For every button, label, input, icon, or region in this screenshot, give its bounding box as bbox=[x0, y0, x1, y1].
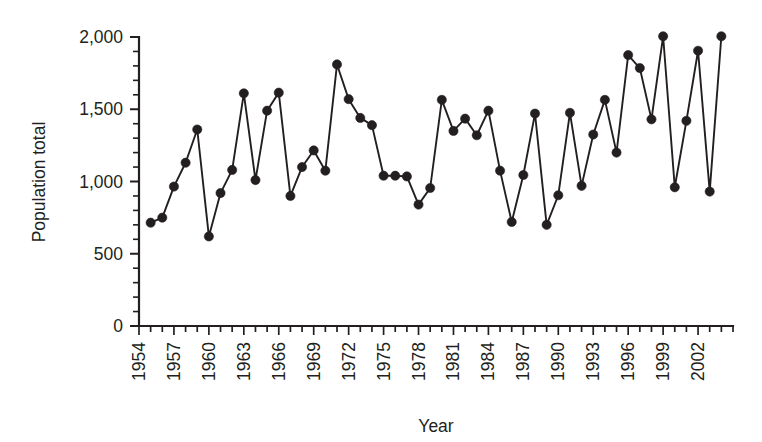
data-point bbox=[426, 183, 435, 192]
data-point bbox=[216, 188, 225, 197]
x-tick-label: 1957 bbox=[164, 342, 184, 381]
data-point bbox=[367, 121, 376, 130]
x-tick-label: 1966 bbox=[269, 342, 289, 381]
data-point bbox=[321, 166, 330, 175]
data-point bbox=[391, 171, 400, 180]
y-axis-title: Population total bbox=[29, 122, 49, 243]
x-tick-label: 1969 bbox=[304, 342, 324, 381]
chart-figure: 05001,0001,5002,000 Population total 195… bbox=[0, 0, 762, 442]
data-point bbox=[251, 175, 260, 184]
data-point bbox=[274, 88, 283, 97]
x-tick-label: 1975 bbox=[374, 342, 394, 381]
x-axis-tick-labels: 1954195719601963196619691972197519781981… bbox=[129, 342, 708, 381]
x-tick-label: 1987 bbox=[513, 342, 533, 381]
data-point bbox=[181, 158, 190, 167]
data-point bbox=[158, 213, 167, 222]
data-point bbox=[717, 32, 726, 41]
data-series bbox=[146, 32, 726, 241]
data-point bbox=[705, 187, 714, 196]
data-point bbox=[577, 181, 586, 190]
data-point bbox=[146, 218, 155, 227]
data-point bbox=[297, 162, 306, 171]
data-point bbox=[193, 125, 202, 134]
data-point bbox=[332, 60, 341, 69]
data-point bbox=[565, 108, 574, 117]
x-tick-label: 1984 bbox=[478, 342, 498, 381]
x-tick-label: 2002 bbox=[688, 342, 708, 381]
y-tick-label: 1,500 bbox=[79, 99, 123, 119]
x-axis: 1954195719601963196619691972197519781981… bbox=[129, 326, 733, 436]
data-point bbox=[286, 191, 295, 200]
data-point bbox=[169, 182, 178, 191]
population-total-line-chart: 05001,0001,5002,000 Population total 195… bbox=[0, 0, 762, 442]
data-point bbox=[402, 172, 411, 181]
data-point bbox=[239, 89, 248, 98]
data-point bbox=[449, 126, 458, 135]
data-point bbox=[542, 220, 551, 229]
data-point bbox=[635, 63, 644, 72]
data-point bbox=[344, 95, 353, 104]
x-tick-label: 1993 bbox=[583, 342, 603, 381]
x-tick-label: 1999 bbox=[653, 342, 673, 381]
data-point bbox=[693, 46, 702, 55]
data-point bbox=[461, 114, 470, 123]
y-tick-label: 500 bbox=[94, 244, 123, 264]
data-point bbox=[414, 200, 423, 209]
series-markers bbox=[146, 32, 726, 241]
data-point bbox=[647, 115, 656, 124]
x-axis-ticks bbox=[139, 326, 733, 335]
data-point bbox=[612, 148, 621, 157]
data-point bbox=[554, 191, 563, 200]
x-tick-label: 1978 bbox=[409, 342, 429, 381]
data-point bbox=[484, 106, 493, 115]
data-point bbox=[356, 113, 365, 122]
x-tick-label: 1981 bbox=[443, 342, 463, 381]
x-tick-label: 1963 bbox=[234, 342, 254, 381]
x-tick-label: 1990 bbox=[548, 342, 568, 381]
data-point bbox=[379, 171, 388, 180]
y-tick-label: 1,000 bbox=[79, 172, 123, 192]
data-point bbox=[624, 50, 633, 59]
y-tick-label: 0 bbox=[113, 316, 123, 336]
data-point bbox=[204, 232, 213, 241]
data-point bbox=[309, 146, 318, 155]
x-tick-label: 1954 bbox=[129, 342, 149, 381]
x-tick-label: 1960 bbox=[199, 342, 219, 381]
data-point bbox=[495, 166, 504, 175]
data-point bbox=[472, 131, 481, 140]
data-point bbox=[228, 165, 237, 174]
data-point bbox=[530, 109, 539, 118]
data-point bbox=[437, 95, 446, 104]
y-axis-ticks bbox=[130, 37, 139, 326]
x-tick-label: 1996 bbox=[618, 342, 638, 381]
y-axis: 05001,0001,5002,000 Population total bbox=[29, 27, 139, 336]
data-point bbox=[600, 95, 609, 104]
data-point bbox=[670, 183, 679, 192]
data-point bbox=[589, 130, 598, 139]
x-axis-title: Year bbox=[418, 416, 454, 436]
x-tick-label: 1972 bbox=[339, 342, 359, 381]
data-point bbox=[659, 32, 668, 41]
y-axis-tick-labels: 05001,0001,5002,000 bbox=[79, 27, 123, 336]
y-tick-label: 2,000 bbox=[79, 27, 123, 47]
data-point bbox=[682, 116, 691, 125]
data-point bbox=[519, 170, 528, 179]
data-point bbox=[263, 106, 272, 115]
data-point bbox=[507, 217, 516, 226]
